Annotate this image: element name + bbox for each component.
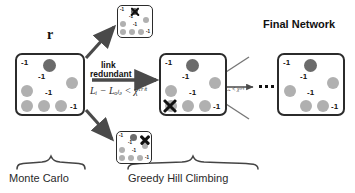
weight-label-2: -1	[182, 73, 189, 81]
node-top	[304, 59, 317, 72]
node-right	[66, 77, 78, 89]
arrow-to-rejected-bottom	[86, 110, 112, 139]
node-bottom-mid	[128, 155, 134, 161]
arrow-branch-up	[226, 57, 249, 72]
weight-label-1: -1	[165, 59, 172, 67]
node-bottom-right	[55, 100, 67, 112]
node-left	[21, 85, 33, 97]
phase-label-monte-carlo: Monte Carlo	[9, 172, 69, 184]
node-bottom-right	[138, 29, 144, 35]
candidate-network-rejected-top[interactable]: -1 -1 -1 -1	[117, 5, 153, 38]
greedy-hill-climbing-network[interactable]: -1 -1 -1 -1	[159, 53, 227, 116]
weight-label-1: -1	[120, 8, 124, 13]
phase-label-greedy: Greedy Hill Climbing	[128, 172, 228, 184]
node-bottom-mid	[300, 100, 312, 112]
ellipsis-dots	[259, 85, 274, 88]
weight-label-1: -1	[283, 59, 290, 67]
weight-label-3: -1	[307, 89, 314, 97]
weight-label-3: -1	[132, 149, 136, 154]
node-right	[327, 77, 339, 89]
node-bottom-right	[317, 100, 329, 112]
node-right	[209, 77, 221, 89]
weight-label-4: -1	[331, 103, 338, 111]
arrow-branch-down	[226, 104, 249, 119]
weight-label-2: -1	[38, 73, 45, 81]
weight-label-4: -1	[145, 156, 149, 161]
node-left	[120, 21, 126, 27]
weight-label-2: -1	[128, 141, 132, 146]
weight-label-3: -1	[45, 89, 52, 97]
weight-label-3: -1	[189, 89, 196, 97]
node-right	[143, 17, 149, 23]
removed-link-x-icon	[161, 97, 178, 114]
weight-label-4: -1	[213, 103, 220, 111]
node-top	[186, 59, 199, 72]
weight-label-1: -1	[21, 59, 28, 67]
arrow-label-redundant: redundant	[90, 69, 132, 79]
node-bottom-left	[120, 29, 126, 35]
node-top	[43, 59, 56, 72]
monte-carlo-network[interactable]: -1 -1 -1 -1	[15, 53, 85, 116]
brace-monte-carlo	[17, 156, 85, 169]
criterion-formula-main: Lᵢ − Lₒₗₔ < χᶜʳⁱᵗ	[90, 85, 147, 96]
r-label: r	[47, 27, 53, 43]
rejected-x-icon	[139, 134, 151, 146]
node-left	[165, 85, 177, 97]
weight-label-2: -1	[300, 73, 307, 81]
weight-label-3: -1	[133, 23, 137, 28]
node-left	[119, 147, 125, 153]
figure-canvas: r Final Network link redundant Lᵢ − Lₒₗₔ…	[0, 0, 355, 193]
node-bottom-mid	[182, 100, 194, 112]
node-bottom-right	[199, 100, 211, 112]
final-network-title: Final Network	[263, 18, 335, 30]
node-bottom-mid	[129, 29, 135, 35]
candidate-network-rejected-bottom[interactable]: -1 -1 -1 -1	[116, 131, 152, 164]
rejected-x-icon	[129, 6, 140, 17]
weight-label-4: -1	[146, 30, 150, 35]
weight-label-1: -1	[119, 134, 123, 139]
node-bottom-mid	[38, 100, 50, 112]
final-network[interactable]: -1 -1 -1 -1	[277, 53, 345, 116]
arrow-to-rejected-top	[86, 27, 114, 58]
node-bottom-left	[119, 155, 125, 161]
node-bottom-right	[137, 155, 143, 161]
weight-label-4: -1	[70, 103, 77, 111]
node-left	[284, 85, 296, 97]
node-bottom-left	[21, 100, 33, 112]
